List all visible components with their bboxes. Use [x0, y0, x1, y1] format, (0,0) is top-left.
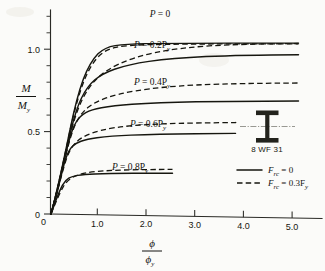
- x-axis-title-numerator: ϕ: [149, 237, 155, 249]
- x-tick-label-5-0: 5.0: [286, 222, 299, 232]
- y-tick-label-0-5: 0.5: [27, 127, 40, 137]
- x-tick-label-origin: 0: [41, 217, 46, 227]
- y-tick-label-1-0: 1.0: [27, 45, 40, 55]
- x-tick-label-4-0: 4.0: [237, 221, 250, 231]
- chart-canvas: 0 0.5 1.0 0 1.0 2.0 3.0 4.0 5.0 M My ϕ ϕ…: [0, 0, 325, 271]
- y-tick-label-0: 0: [35, 210, 40, 220]
- scan-smudge: [6, 7, 34, 17]
- moment-curvature-figure: 0 0.5 1.0 0 1.0 2.0 3.0 4.0 5.0 M My ϕ ϕ…: [0, 0, 325, 271]
- x-tick-label-3-0: 3.0: [188, 220, 201, 230]
- x-tick-label-1-0: 1.0: [91, 219, 104, 229]
- scan-smudge: [199, 53, 229, 67]
- y-axis-title-numerator: M: [20, 82, 31, 94]
- curve-label-p0: P = 0: [149, 9, 171, 19]
- beam-section-label: 8 WF 31: [251, 145, 283, 154]
- x-tick-label-2-0: 2.0: [140, 219, 153, 229]
